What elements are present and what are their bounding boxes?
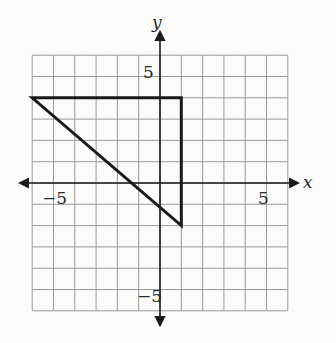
tick-label-x-neg5: −5 (42, 188, 67, 208)
tick-label-x-5: 5 (258, 188, 269, 208)
y-axis-label: y (151, 12, 162, 32)
tick-label-y-neg5: −5 (137, 286, 162, 306)
coordinate-plane: x y −5 5 5 −5 (0, 0, 336, 343)
x-axis-label: x (303, 172, 313, 192)
tick-label-y-5: 5 (143, 62, 154, 82)
axes (20, 32, 298, 325)
